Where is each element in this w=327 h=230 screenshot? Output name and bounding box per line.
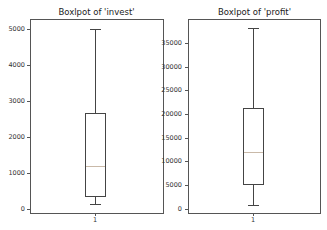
y-tick bbox=[27, 65, 30, 66]
y-tick-label: 1000 bbox=[0, 169, 25, 177]
y-tick bbox=[185, 209, 188, 210]
y-tick-label: 35000 bbox=[152, 39, 182, 47]
upper-whisker bbox=[95, 29, 96, 113]
y-tick-label: 20000 bbox=[152, 110, 182, 118]
x-tick-label: 1 bbox=[90, 216, 100, 224]
lower-cap bbox=[90, 204, 101, 205]
y-tick-label: 15000 bbox=[152, 134, 182, 142]
y-tick-label: 0 bbox=[152, 205, 182, 213]
upper-whisker bbox=[253, 28, 254, 108]
y-tick bbox=[27, 137, 30, 138]
y-tick-label: 3000 bbox=[0, 97, 25, 105]
median-line bbox=[86, 166, 105, 167]
x-tick-label: 1 bbox=[248, 216, 258, 224]
lower-whisker bbox=[95, 196, 96, 204]
y-tick bbox=[27, 29, 30, 30]
y-tick-label: 4000 bbox=[0, 61, 25, 69]
figure: Boxlpot of 'invest' 0 1000 2000 3000 400… bbox=[0, 0, 327, 230]
y-tick-label: 5000 bbox=[152, 181, 182, 189]
y-tick bbox=[185, 90, 188, 91]
median-line bbox=[244, 152, 263, 153]
y-tick bbox=[185, 43, 188, 44]
right-chart-title: Boxlpot of 'profit' bbox=[188, 7, 321, 17]
y-tick-label: 0 bbox=[0, 205, 25, 213]
y-tick-label: 25000 bbox=[152, 86, 182, 94]
iqr-box bbox=[85, 113, 106, 197]
y-tick bbox=[27, 209, 30, 210]
y-tick bbox=[185, 161, 188, 162]
y-tick bbox=[185, 114, 188, 115]
y-tick bbox=[27, 173, 30, 174]
y-tick-label: 5000 bbox=[0, 25, 25, 33]
y-tick-label: 2000 bbox=[0, 133, 25, 141]
y-tick-label: 10000 bbox=[152, 157, 182, 165]
y-tick bbox=[185, 138, 188, 139]
y-tick bbox=[185, 67, 188, 68]
y-tick bbox=[27, 101, 30, 102]
iqr-box bbox=[243, 108, 264, 185]
lower-cap bbox=[248, 205, 259, 206]
y-tick-label: 30000 bbox=[152, 63, 182, 71]
lower-whisker bbox=[253, 184, 254, 205]
y-tick bbox=[185, 185, 188, 186]
left-chart-title: Boxlpot of 'invest' bbox=[30, 7, 163, 17]
